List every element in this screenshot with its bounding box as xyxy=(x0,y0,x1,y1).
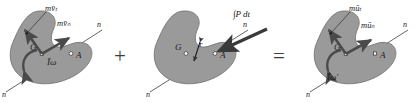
contact-point-marker xyxy=(69,52,73,56)
centroid-label: G xyxy=(175,42,182,52)
final-momentum-panel: G A mūₜ mūₙ Īω' n n xyxy=(306,3,408,99)
contact-point-label: A xyxy=(379,50,386,60)
plus-operator: + xyxy=(114,44,126,68)
axis-label-n-top: n xyxy=(97,20,101,29)
contact-point-marker xyxy=(213,52,217,56)
momentum-n-label: mūₙ xyxy=(361,20,375,30)
momentum-n-label: mv̄ₙ xyxy=(57,18,71,28)
initial-momentum-panel: G A mv̄ₜ mv̄ₙ Īω n n xyxy=(2,3,102,99)
axis-label-n-bottom: n xyxy=(306,90,310,99)
angular-momentum-label: Īω xyxy=(46,57,56,67)
momentum-t-label: mv̄ₜ xyxy=(45,3,58,13)
axis-label-n-bottom: n xyxy=(146,90,150,99)
impulse-panel: G A r ∫P dt n n xyxy=(146,9,267,99)
impulse-arrow xyxy=(219,29,267,51)
momentum-t-label: mūₜ xyxy=(349,3,362,13)
axis-label-n-top: n xyxy=(403,20,407,29)
axis-label-n-bottom: n xyxy=(2,90,6,99)
figure-canvas: G A mv̄ₜ mv̄ₙ Īω n n + G A r ∫P dt xyxy=(0,0,415,103)
contact-point-marker xyxy=(373,52,376,55)
axis-label-n-top: n xyxy=(243,20,247,29)
angular-momentum-label: Īω' xyxy=(326,72,339,82)
equals-operator: = xyxy=(273,44,285,68)
centroid-marker xyxy=(184,52,188,56)
impulse-label: ∫P dt xyxy=(232,9,251,20)
contact-point-label: A xyxy=(75,50,82,60)
moment-arm-label: r xyxy=(199,39,203,49)
impulse-momentum-diagram: G A mv̄ₜ mv̄ₙ Īω n n + G A r ∫P dt xyxy=(0,0,415,103)
